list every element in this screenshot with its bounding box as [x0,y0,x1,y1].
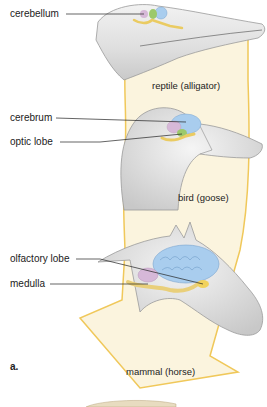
label-cerebrum: cerebrum [10,113,52,123]
label-olfactory-lobe: olfactory lobe [10,254,69,264]
panel-letter: a. [10,362,18,372]
brain-evolution-diagram [0,0,267,407]
label-medulla: medulla [10,279,45,289]
next-figure-edge [86,400,176,407]
caption-bird: bird (goose) [178,193,229,203]
label-cerebellum: cerebellum [10,9,59,19]
label-optic-lobe: optic lobe [10,137,53,147]
caption-reptile: reptile (alligator) [152,81,220,91]
caption-mammal: mammal (horse) [126,367,195,377]
